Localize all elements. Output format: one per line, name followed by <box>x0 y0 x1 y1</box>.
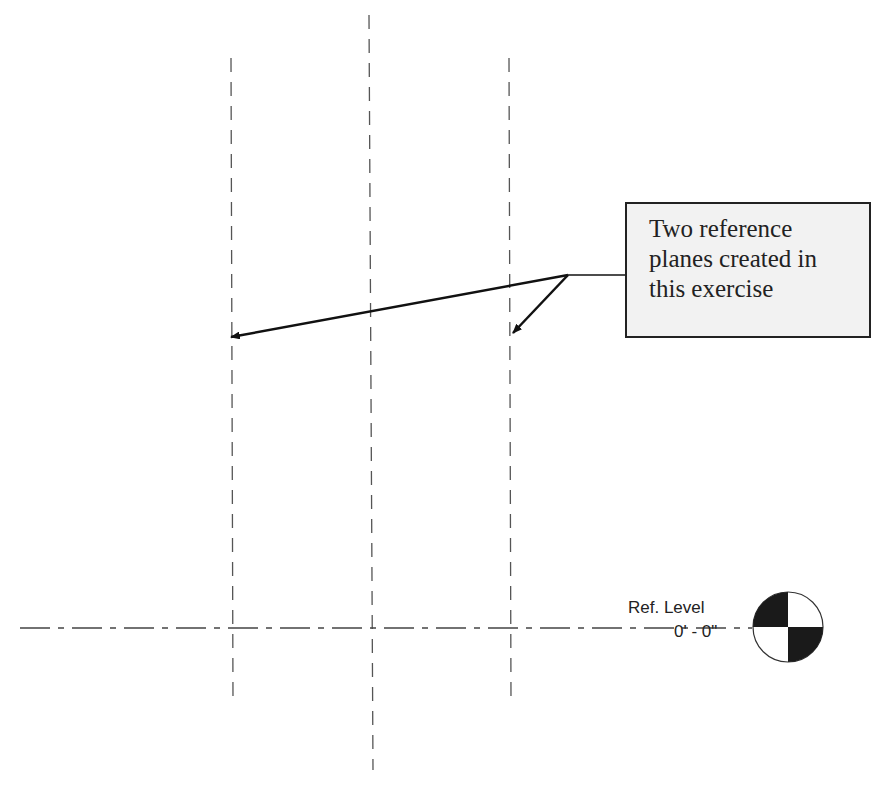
ref-plane-left[interactable] <box>231 58 233 700</box>
level-name[interactable]: Ref. Level <box>628 598 705 618</box>
level-head-icon[interactable] <box>753 592 823 662</box>
callout-line-3: this exercise <box>649 274 869 304</box>
callout-line-1: Two reference <box>649 214 869 244</box>
leader-arrows <box>231 275 625 337</box>
drawing-canvas <box>0 0 878 785</box>
level-elevation[interactable]: 0' - 0" <box>674 622 717 642</box>
ref-plane-right[interactable] <box>509 58 511 700</box>
ref-plane-center[interactable] <box>369 15 373 770</box>
callout-box: Two reference planes created in this exe… <box>625 202 871 338</box>
callout-line-2: planes created in <box>649 244 869 274</box>
